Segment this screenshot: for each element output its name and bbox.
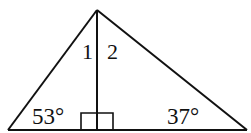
angle-1-label: 1 [82, 39, 93, 64]
right-angle-marker-left [81, 113, 97, 130]
angle-2-label: 2 [107, 39, 118, 64]
right-angle-marker-right [97, 113, 113, 130]
angle-right-label: 37° [167, 104, 199, 129]
triangle-diagram: 1 2 53° 37° [0, 0, 251, 133]
angle-left-label: 53° [32, 104, 64, 129]
